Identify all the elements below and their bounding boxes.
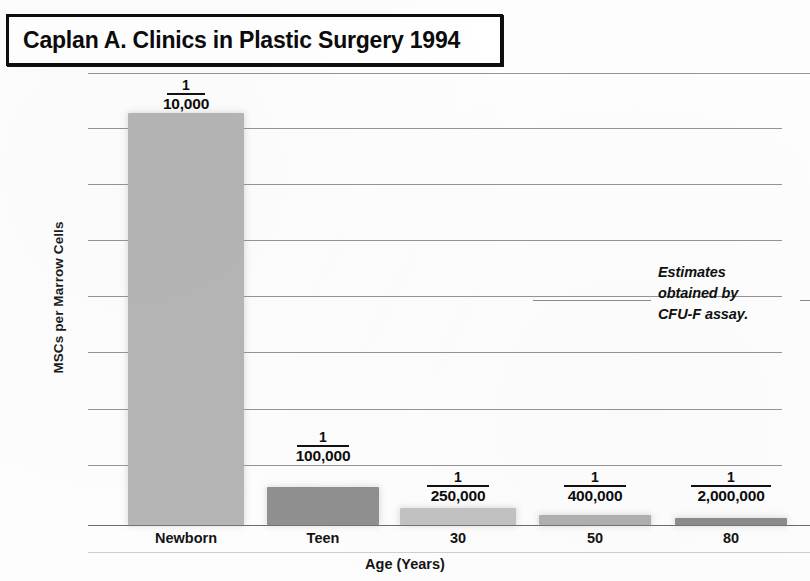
x-axis-tick-label: Newborn — [110, 530, 262, 546]
fraction-numerator: 1 — [539, 470, 651, 485]
bar-value-label: 12,000,000 — [669, 470, 793, 504]
fraction-numerator: 1 — [128, 78, 244, 93]
annotation-line-3: CFU-F assay. — [658, 304, 808, 325]
chart-canvas: 110,0001100,0001250,0001400,00012,000,00… — [0, 0, 810, 581]
fraction-numerator: 1 — [267, 430, 379, 445]
annotation-leader-left — [533, 300, 651, 301]
footer-rule — [88, 552, 810, 553]
gridline — [88, 73, 810, 74]
bar-50 — [539, 515, 651, 525]
annotation-text: Estimates obtained by CFU-F assay. — [658, 262, 808, 325]
bar-value-label: 110,000 — [128, 78, 244, 112]
x-axis-tick-label: 30 — [400, 530, 516, 546]
fraction-numerator: 1 — [400, 470, 516, 485]
bar-value-label: 1400,000 — [539, 470, 651, 504]
citation-title-box: Caplan A. Clinics in Plastic Surgery 199… — [6, 14, 503, 66]
fraction-denominator: 10,000 — [128, 96, 244, 112]
fraction-denominator: 250,000 — [400, 488, 516, 504]
fraction-denominator: 2,000,000 — [669, 488, 793, 504]
annotation-line-2: obtained by — [658, 283, 808, 304]
bar-30 — [400, 508, 516, 525]
bar-value-label: 1100,000 — [267, 430, 379, 464]
page-title: Caplan A. Clinics in Plastic Surgery 199… — [9, 27, 460, 54]
fraction-denominator: 400,000 — [539, 488, 651, 504]
bar-teen — [267, 487, 379, 525]
x-axis-tick-label: 50 — [539, 530, 651, 546]
x-axis-tick-label: Teen — [257, 530, 389, 546]
fraction-denominator: 100,000 — [267, 448, 379, 464]
fraction-numerator: 1 — [669, 470, 793, 485]
x-axis-baseline — [88, 525, 810, 526]
bar-80 — [675, 518, 787, 525]
bar-newborn — [128, 113, 244, 525]
x-axis-tick-label: 80 — [675, 530, 787, 546]
y-axis-title: MSCs per Marrow Cells — [51, 178, 66, 418]
x-axis-title: Age (Years) — [0, 556, 810, 572]
bar-value-label: 1250,000 — [400, 470, 516, 504]
annotation-line-1: Estimates — [658, 262, 808, 283]
